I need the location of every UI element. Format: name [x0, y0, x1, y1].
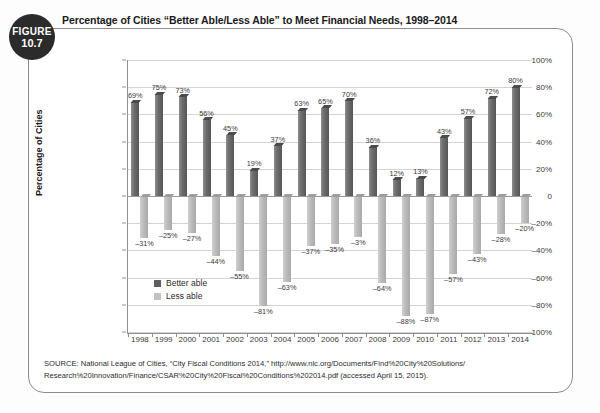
bar-less-able-1999: [164, 196, 172, 230]
bar-face: [521, 196, 529, 223]
x-axis-tick-mark: [152, 333, 153, 337]
bar-face: [354, 196, 362, 237]
bar-better-able-2012: [464, 118, 472, 196]
bar-better-able-2010: [416, 178, 424, 196]
figure-badge-number: 10.7: [21, 37, 42, 49]
bar-better-able-2009: [393, 180, 401, 196]
bar-top-face: [354, 194, 364, 197]
bar-better-able-2014: [512, 87, 520, 196]
bar-value-label: 37%: [271, 135, 286, 144]
x-axis-tick-label: 2005: [297, 335, 315, 344]
x-axis-tick-mark: [247, 333, 248, 337]
x-axis-tick-mark: [437, 333, 438, 337]
bar-face: [203, 120, 211, 196]
bar-value-label: 13%: [413, 167, 428, 176]
bar-face: [402, 196, 410, 316]
y-axis-tick-mark: [122, 141, 126, 142]
y-axis-tick-mark: [122, 60, 126, 61]
bar-less-able-2003: [259, 196, 267, 306]
bar-less-able-2013: [497, 196, 505, 234]
bar-face: [488, 98, 496, 196]
x-axis-tick-mark: [223, 333, 224, 337]
legend-item-better-able: Better able: [154, 278, 207, 288]
bar-better-able-2007: [345, 101, 353, 196]
bar-face: [236, 196, 244, 271]
legend-swatch-less-able: [154, 293, 161, 300]
bar-value-label: –43%: [468, 255, 487, 264]
x-axis-tick-label: 2011: [440, 335, 457, 344]
bar-face: [179, 97, 187, 196]
bar-less-able-2000: [188, 196, 196, 233]
bar-value-label: –28%: [492, 235, 511, 244]
x-axis-tick-label: 2014: [511, 335, 529, 344]
bar-value-label: 70%: [342, 90, 357, 99]
bar-top-face: [307, 194, 317, 197]
x-axis-tick-mark: [342, 333, 343, 337]
bar-better-able-2003: [250, 170, 258, 196]
x-axis-tick-label: 2002: [226, 335, 244, 344]
bar-top-face: [473, 194, 483, 197]
bar-value-label: –25%: [159, 231, 178, 240]
bar-value-label: 19%: [247, 159, 262, 168]
x-axis-tick-mark: [271, 333, 272, 337]
x-axis-tick-label: 2003: [250, 335, 268, 344]
legend-label-better-able: Better able: [166, 278, 207, 288]
bar-less-able-2009: [402, 196, 410, 316]
x-axis-tick-label: 2012: [464, 335, 482, 344]
bar-less-able-2010: [426, 196, 434, 314]
bar-face: [307, 196, 315, 246]
bar-value-label: –87%: [420, 315, 439, 324]
x-axis-tick-mark: [366, 333, 367, 337]
bar-value-label: –55%: [230, 272, 249, 281]
legend-swatch-better-able: [154, 280, 161, 287]
bar-better-able-2001: [203, 120, 211, 196]
bar-less-able-2005: [307, 196, 315, 246]
bar-better-able-1998: [131, 102, 139, 196]
bar-face: [464, 118, 472, 196]
chart-area: Percentage of Cities 100%80%60%40%20%0–2…: [62, 46, 552, 346]
x-axis-tick-label: 2001: [202, 335, 220, 344]
x-axis-tick-mark: [128, 333, 129, 337]
bar-top-face: [378, 194, 388, 197]
bar-value-label: 57%: [461, 107, 476, 116]
x-axis-tick-mark: [318, 333, 319, 337]
bar-top-face: [402, 194, 412, 197]
bar-face: [440, 138, 448, 196]
bar-value-label: –37%: [301, 247, 320, 256]
bar-face: [416, 178, 424, 196]
bar-face: [140, 196, 148, 238]
bar-top-face: [212, 194, 222, 197]
bar-value-label: 56%: [199, 109, 214, 118]
bar-value-label: –44%: [206, 257, 225, 266]
y-axis-tick-mark: [122, 332, 126, 333]
bar-face: [274, 146, 282, 196]
bar-value-label: –35%: [325, 245, 344, 254]
bar-face: [188, 196, 196, 233]
page-title: Percentage of Cities “Better Able/Less A…: [62, 14, 542, 26]
bar-value-label: 36%: [366, 136, 381, 145]
bar-less-able-2012: [473, 196, 481, 254]
source-line-1: SOURCE: National League of Cities, “City…: [44, 359, 465, 368]
bar-value-label: –57%: [444, 275, 463, 284]
bar-less-able-2006: [331, 196, 339, 244]
bar-better-able-2013: [488, 98, 496, 196]
bar-face: [426, 196, 434, 314]
bar-better-able-2011: [440, 138, 448, 196]
bar-top-face: [141, 194, 151, 197]
bar-value-label: 45%: [223, 124, 238, 133]
bar-value-label: –63%: [278, 283, 297, 292]
y-axis-tick-mark: [122, 114, 126, 115]
bar-less-able-2008: [378, 196, 386, 283]
bar-value-label: 72%: [484, 87, 499, 96]
bar-face: [212, 196, 220, 256]
bar-less-able-2004: [283, 196, 291, 282]
bar-value-label: 75%: [152, 83, 167, 92]
x-axis-tick-label: 1998: [131, 335, 149, 344]
bar-face: [345, 101, 353, 196]
bar-less-able-1998: [140, 196, 148, 238]
bar-top-face: [188, 194, 198, 197]
bar-top-face: [236, 194, 246, 197]
bar-face: [512, 87, 520, 196]
bar-value-label: 69%: [128, 91, 143, 100]
x-axis-tick-label: 2013: [487, 335, 505, 344]
